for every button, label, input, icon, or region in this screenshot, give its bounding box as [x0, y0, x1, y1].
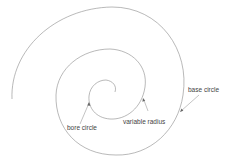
bore-circle-label: bore circle	[67, 124, 97, 131]
spiral-curve	[12, 7, 184, 155]
bore-circle-leader	[80, 103, 89, 124]
base-circle-label: base circle	[188, 86, 219, 93]
variable-radius-label: variable radius	[123, 118, 166, 125]
spiral-diagram: bore circle variable radius base circle	[0, 0, 234, 163]
base-circle-leader	[181, 95, 199, 111]
variable-radius-arrow-icon	[142, 98, 145, 102]
